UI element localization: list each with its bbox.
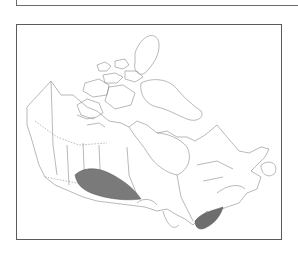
southern-ontario-range — [195, 207, 223, 229]
map-frame — [16, 24, 282, 240]
prairies-range — [75, 169, 141, 200]
previous-figure-frame — [16, 0, 298, 6]
map-outlines — [27, 36, 276, 228]
canada-map — [17, 25, 281, 239]
